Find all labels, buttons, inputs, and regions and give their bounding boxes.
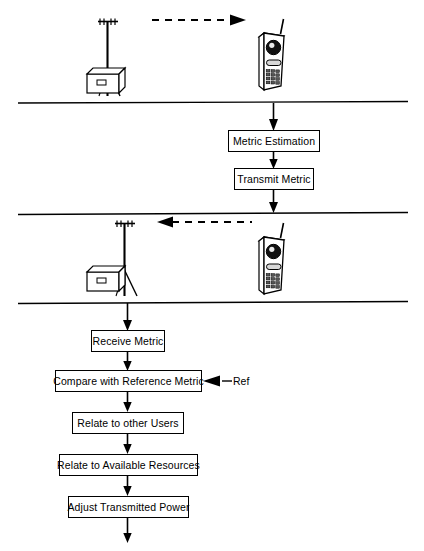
section-divider-2 xyxy=(18,213,408,215)
relate-to-available-resources-box[interactable]: Relate to Available Resources xyxy=(59,454,198,476)
base-station-building-icon-top xyxy=(87,68,125,93)
compare-with-reference-metric-label: Compare with Reference Metric xyxy=(53,376,204,387)
flow-arrow-receive-metric-to-compare xyxy=(123,352,131,371)
relate-to-other-users-label: Relate to other Users xyxy=(77,418,178,429)
compare-with-reference-metric-box[interactable]: Compare with Reference Metric xyxy=(55,370,202,392)
mobile-handset-icon-top xyxy=(259,19,284,90)
adjust-transmitted-power-label: Adjust Transmitted Power xyxy=(67,502,189,513)
receive-metric-label: Receive Metric xyxy=(93,336,164,347)
metric-estimation-label: Metric Estimation xyxy=(233,136,315,147)
flow-arrow-compare-to-relate-users xyxy=(123,392,131,412)
uplink-signal-arrow xyxy=(157,217,252,228)
relate-to-other-users-box[interactable]: Relate to other Users xyxy=(72,412,184,434)
flow-arrow-metric-estimation-to-transmit-metric xyxy=(269,152,277,169)
transmit-metric-label: Transmit Metric xyxy=(237,174,310,185)
section-divider-3 xyxy=(18,302,408,304)
metric-estimation-box[interactable]: Metric Estimation xyxy=(228,130,320,152)
mobile-handset-icon-bottom xyxy=(259,223,284,294)
flow-arrow-relate-resources-to-adjust-power xyxy=(123,476,131,496)
power-control-flow-diagram: Metric Estimation Transmit Metric Receiv… xyxy=(0,0,424,551)
flow-arrow-relate-users-to-relate-resources xyxy=(123,434,131,454)
receive-metric-box[interactable]: Receive Metric xyxy=(91,330,165,352)
relate-to-available-resources-label: Relate to Available Resources xyxy=(57,460,200,471)
downlink-signal-arrow xyxy=(152,15,246,26)
flow-arrow-divider1-to-metric-estimation xyxy=(269,103,278,131)
reference-input-arrow xyxy=(203,376,232,387)
flow-arrow-adjust-power-output xyxy=(123,518,131,543)
reference-input-label: Ref xyxy=(233,376,249,387)
adjust-transmitted-power-box[interactable]: Adjust Transmitted Power xyxy=(68,496,189,518)
flow-arrow-divider3-to-receive-metric xyxy=(123,303,132,331)
base-station-building-icon-bottom xyxy=(87,266,125,291)
flow-arrow-transmit-metric-to-divider2 xyxy=(269,190,278,213)
section-divider-1 xyxy=(18,102,408,104)
transmit-metric-box[interactable]: Transmit Metric xyxy=(234,168,314,190)
